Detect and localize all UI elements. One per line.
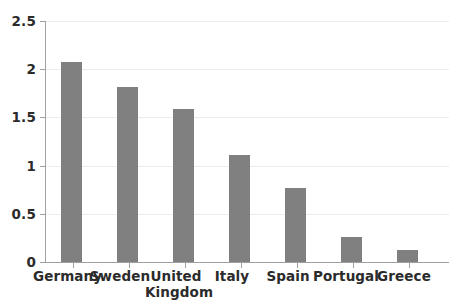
bar-united-kingdom[interactable]	[173, 109, 194, 262]
gridline-2	[45, 69, 449, 70]
y-tick-mark-1	[40, 166, 45, 167]
y-axis-labels: 2.5 2 1.5 1 0.5 0	[0, 0, 36, 306]
y-tick-label-1: 1	[26, 160, 36, 174]
gridline-2.5	[45, 21, 449, 22]
y-tick-label-2.5: 2.5	[11, 15, 36, 29]
bar-sweden[interactable]	[117, 87, 138, 262]
x-tick-label-spain: Spain	[257, 268, 319, 284]
x-tick-label-greece: Greece	[371, 268, 437, 284]
gridline-1.5	[45, 117, 449, 118]
plot-area	[45, 21, 449, 262]
y-tick-mark-0.5	[40, 214, 45, 215]
y-tick-mark-0	[40, 262, 45, 263]
y-axis-line	[45, 21, 46, 262]
x-tick-label-sweden: Sweden	[89, 268, 151, 284]
bar-chart: 2.5 2 1.5 1 0.5 0 Germany Sweden United …	[0, 0, 449, 306]
x-tick-label-united-kingdom: United Kingdom	[145, 268, 207, 300]
y-tick-mark-2	[40, 69, 45, 70]
bar-italy[interactable]	[229, 155, 250, 262]
y-tick-mark-1.5	[40, 117, 45, 118]
bar-greece[interactable]	[397, 250, 418, 262]
y-tick-label-1.5: 1.5	[11, 111, 36, 125]
x-tick-label-germany: Germany	[33, 268, 95, 284]
y-tick-label-2: 2	[26, 63, 36, 77]
x-tick-label-italy: Italy	[201, 268, 263, 284]
y-tick-label-0.5: 0.5	[11, 208, 36, 222]
bar-germany[interactable]	[61, 62, 82, 263]
bar-portugal[interactable]	[341, 237, 362, 262]
y-tick-mark-2.5	[40, 21, 45, 22]
x-axis-line	[45, 262, 449, 263]
bar-spain[interactable]	[285, 188, 306, 262]
